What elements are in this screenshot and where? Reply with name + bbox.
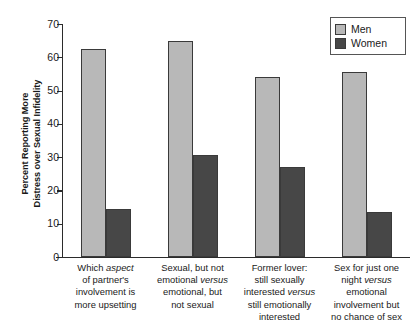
y-axis-title-line-2: Distress over Sexual Infidelity — [32, 26, 44, 262]
bar-men — [168, 41, 193, 257]
bar-women — [367, 212, 392, 257]
x-label-line: of partner's — [62, 274, 149, 286]
y-tick-label: 70 — [47, 18, 59, 31]
legend-label-women: Women — [351, 37, 387, 50]
y-tick-label: 40 — [47, 117, 59, 130]
x-label-line: Which aspect — [62, 262, 149, 274]
y-tick-label: 50 — [47, 84, 59, 97]
x-label-line: Former lover: — [236, 262, 323, 274]
x-label-text: interested — [244, 286, 288, 297]
x-label-line: interested — [236, 311, 323, 323]
bar-men — [81, 49, 106, 257]
y-axis-title: Percent Reporting More Distress over Sex… — [20, 26, 43, 262]
y-tick-label: 10 — [47, 217, 59, 230]
legend-item-men: Men — [335, 22, 400, 36]
x-label-text: no chance of sex — [331, 311, 402, 322]
x-label-text: more upsetting — [74, 299, 136, 310]
x-label-emphasis: versus — [200, 274, 228, 285]
x-label-line: emotional, but — [149, 286, 236, 298]
x-label-line: Sex for just one — [323, 262, 410, 274]
x-axis-label: Sex for just onenight versusemotionalinv… — [323, 262, 410, 323]
y-tick-label: 20 — [47, 184, 59, 197]
y-tick-label: 30 — [47, 151, 59, 164]
bar-men — [342, 72, 367, 257]
y-axis-title-line-1: Percent Reporting More — [20, 26, 32, 262]
bar-group — [255, 24, 305, 257]
x-label-text: emotional — [346, 286, 387, 297]
x-label-text: emotional, but — [163, 286, 222, 297]
bar-group — [81, 24, 131, 257]
x-label-text: involvement but — [334, 299, 400, 310]
x-label-line: involvement is — [62, 286, 149, 298]
x-label-text: Sexual, but not — [161, 262, 224, 273]
x-label-text: involvement is — [76, 286, 135, 297]
x-label-text: Former lover: — [252, 262, 308, 273]
x-label-emphasis: versus — [364, 274, 392, 285]
x-axis-line — [56, 257, 410, 258]
bar-chart: Percent Reporting More Distress over Sex… — [0, 0, 416, 336]
x-axis-label: Former lover:still sexuallyinterested ve… — [236, 262, 323, 323]
legend: Men Women — [330, 17, 406, 55]
bar-men — [255, 77, 280, 257]
x-label-line: no chance of sex — [323, 311, 410, 323]
bar-women — [193, 155, 218, 257]
bar-group — [168, 24, 218, 257]
x-label-emphasis: versus — [288, 286, 316, 297]
x-label-text: Which — [77, 262, 106, 273]
x-label-line: not sexual — [149, 299, 236, 311]
bar-women — [106, 209, 131, 257]
x-label-text: night — [341, 274, 364, 285]
x-label-line: still sexually — [236, 274, 323, 286]
x-label-line: more upsetting — [62, 299, 149, 311]
x-label-text: Sex for just one — [334, 262, 399, 273]
x-axis-labels: Which aspectof partner'sinvolvement ismo… — [62, 262, 410, 334]
plot-area: 010203040506070 — [62, 24, 410, 257]
bars-layer — [62, 24, 410, 257]
legend-item-women: Women — [335, 36, 400, 50]
x-label-emphasis: aspect — [106, 262, 134, 273]
bar-group — [342, 24, 392, 257]
x-label-text: of partner's — [82, 274, 129, 285]
x-axis-label: Sexual, but notemotional versusemotional… — [149, 262, 236, 311]
men-swatch-icon — [335, 24, 346, 35]
x-label-line: Sexual, but not — [149, 262, 236, 274]
bar-women — [280, 167, 305, 257]
women-swatch-icon — [335, 38, 346, 49]
x-axis-label: Which aspectof partner'sinvolvement ismo… — [62, 262, 149, 311]
x-label-text: not sexual — [171, 299, 214, 310]
x-label-line: emotional versus — [149, 274, 236, 286]
x-label-text: emotional — [157, 274, 200, 285]
x-label-line: still emotionally — [236, 299, 323, 311]
legend-label-men: Men — [351, 23, 371, 36]
y-tick-label: 60 — [47, 51, 59, 64]
x-label-line: interested versus — [236, 286, 323, 298]
x-label-line: night versus — [323, 274, 410, 286]
x-label-text: still emotionally — [248, 299, 312, 310]
x-label-line: involvement but — [323, 299, 410, 311]
y-tick-label: 0 — [53, 251, 59, 264]
x-label-text: still sexually — [254, 274, 304, 285]
x-label-text: interested — [259, 311, 300, 322]
x-label-line: emotional — [323, 286, 410, 298]
